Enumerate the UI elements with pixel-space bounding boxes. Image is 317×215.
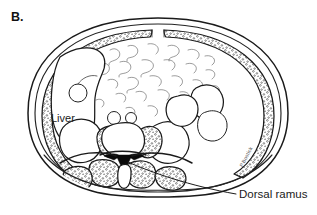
panel-letter-label: B. (11, 11, 24, 24)
right-kidney (60, 119, 103, 163)
paraspinal-muscles (63, 160, 186, 191)
cross-section-illustration (0, 0, 317, 215)
inferior-vena-cava (108, 112, 121, 125)
aorta (126, 113, 137, 124)
spinous-process (118, 165, 131, 189)
figure-container: B. Liver Dorsal ramus P.Bostick (0, 0, 317, 215)
dorsal-ramus-label: Dorsal ramus (239, 189, 307, 201)
liver-label: Liver (51, 113, 75, 124)
